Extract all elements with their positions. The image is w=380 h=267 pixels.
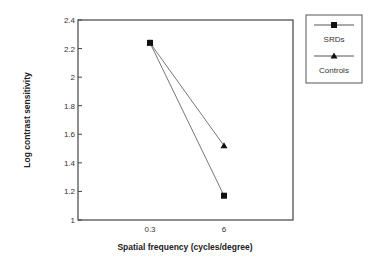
y-axis-ticks: 11.21.41.61.822.22.4 <box>64 16 82 225</box>
legend: SRDs Controls <box>306 15 362 83</box>
legend-label-srds: SRDs <box>324 35 345 44</box>
x-axis-title: Spatial frequency (cycles/degree) <box>117 242 252 252</box>
plot-area-border <box>78 20 293 220</box>
line-chart: 11.21.41.61.822.22.4 0.36 Log contrast s… <box>0 0 380 267</box>
series-line-controls <box>150 43 224 146</box>
y-tick-label: 2 <box>71 73 76 82</box>
y-tick-label: 2.4 <box>64 16 76 25</box>
y-tick-label: 2.2 <box>64 45 76 54</box>
y-tick-label: 1.6 <box>64 130 76 139</box>
x-tick-label: 6 <box>222 225 227 234</box>
square-marker-icon <box>331 22 337 28</box>
x-tick-label: 0.3 <box>144 225 156 234</box>
series-line-srds <box>150 43 224 196</box>
series-lines <box>150 43 224 196</box>
y-tick-label: 1.8 <box>64 102 76 111</box>
legend-label-controls: Controls <box>319 66 349 75</box>
square-marker-icon <box>221 193 227 199</box>
plot-frame <box>78 20 293 220</box>
y-tick-label: 1.4 <box>64 159 76 168</box>
y-tick-label: 1.2 <box>64 187 76 196</box>
y-tick-label: 1 <box>71 216 76 225</box>
y-axis-title: Log contrast sensitivity <box>22 72 32 168</box>
x-axis-ticks: 0.36 <box>144 225 226 234</box>
